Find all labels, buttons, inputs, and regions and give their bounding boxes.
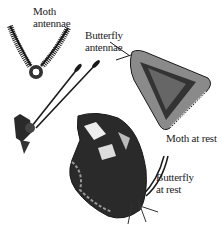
label-butterfly-antennae-line1: Butterfly	[85, 30, 123, 41]
label-butterfly-at-rest-line1: Butterfly	[156, 172, 194, 183]
butterfly-at-rest-drawing	[70, 113, 168, 224]
label-moth-antennae-line1: Moth	[33, 6, 56, 17]
label-butterfly-antennae-line2: antennae	[85, 42, 123, 53]
label-butterfly-at-rest-line2: at rest	[156, 184, 181, 195]
label-moth-antennae-line2: antennae	[33, 18, 71, 29]
label-moth-at-rest: Moth at rest	[166, 133, 217, 144]
moth-at-rest-drawing	[110, 42, 211, 130]
moth-antennae-drawing	[10, 26, 68, 79]
